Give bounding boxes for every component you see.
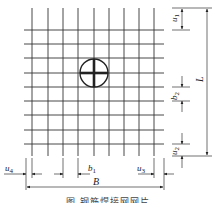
label-b2: b2 — [169, 92, 181, 101]
dimension-labels: u1 b2 u2 L u4 b1 u3 B — [5, 14, 205, 188]
label-u3: u3 — [137, 163, 146, 175]
weld-joint-mark — [80, 59, 108, 87]
label-u1: u1 — [169, 14, 181, 23]
label-B: B — [93, 176, 99, 187]
label-b1: b1 — [88, 163, 97, 175]
label-L: L — [194, 76, 205, 83]
label-u4: u4 — [5, 163, 14, 175]
figure-caption: 图 钢筋焊接网网片 — [0, 195, 216, 203]
steel-mesh-diagram: u1 b2 u2 L u4 b1 u3 B — [0, 0, 216, 203]
dimension-lines-right — [172, 8, 212, 168]
label-u2: u2 — [169, 147, 181, 156]
